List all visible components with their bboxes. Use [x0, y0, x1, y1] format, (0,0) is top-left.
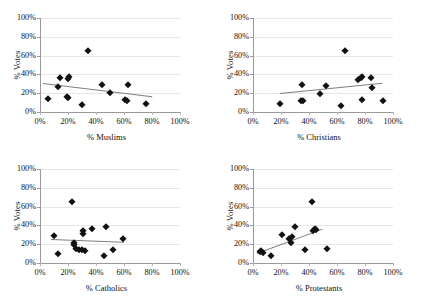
y-tick-label: 40% — [234, 221, 249, 229]
y-tick-label: 60% — [234, 202, 249, 210]
y-tick-label: 40% — [21, 221, 36, 229]
x-tick-label: 40% — [301, 269, 316, 277]
y-tick-label: 40% — [21, 70, 36, 78]
gridline-horizontal — [40, 244, 180, 245]
data-point — [308, 198, 316, 206]
x-tickmark — [68, 263, 69, 266]
chart-panel-christians: % Votes0%20%40%60%80%100%0%20%40%60%80%1… — [213, 0, 425, 151]
x-tick-label: 0% — [35, 269, 46, 277]
y-tick-label: 80% — [234, 33, 249, 41]
data-point — [337, 103, 345, 111]
x-tick-label: 40% — [88, 118, 103, 126]
x-tick-label: 0% — [35, 118, 46, 126]
plot-area-christians — [253, 18, 393, 112]
x-tickmark — [281, 263, 282, 266]
y-tick-label: 20% — [21, 89, 36, 97]
data-point — [379, 97, 387, 105]
x-tickmark — [180, 263, 181, 266]
x-tickmark — [40, 263, 41, 266]
y-axis-line — [253, 169, 254, 263]
data-point — [342, 47, 350, 55]
y-tick-label: 100% — [230, 165, 249, 173]
plot-area-protestants — [253, 169, 393, 263]
gridline-horizontal — [253, 112, 393, 113]
x-tick-label: 80% — [357, 118, 372, 126]
x-tick-label: 60% — [329, 269, 344, 277]
data-point — [301, 246, 309, 254]
x-tick-label: 100% — [383, 269, 402, 277]
data-point — [54, 83, 62, 91]
y-tick-label: 60% — [234, 51, 249, 59]
y-tick-label: 60% — [21, 51, 36, 59]
chart-panel-catholics: % Votes0%20%40%60%80%100%0%20%40%60%80%1… — [0, 151, 213, 302]
data-point — [84, 47, 92, 55]
data-point — [368, 84, 376, 92]
x-tickmark — [124, 112, 125, 115]
data-point — [267, 253, 275, 261]
chart-panel-muslims: % Votes0%20%40%60%80%100%0%20%40%60%80%1… — [0, 0, 213, 151]
y-tick-label: 0% — [25, 108, 36, 116]
x-tickmark — [68, 112, 69, 115]
x-tickmark — [337, 263, 338, 266]
x-tick-label: 40% — [301, 118, 316, 126]
y-tick-label: 100% — [17, 165, 36, 173]
y-axis-line — [40, 18, 41, 112]
x-tick-label: 80% — [144, 118, 159, 126]
x-tick-label: 60% — [116, 118, 131, 126]
y-axis-ticklabels-catholics: 0%20%40%60%80%100% — [0, 151, 36, 302]
gridline-horizontal — [40, 169, 180, 170]
y-axis-line — [253, 18, 254, 112]
gridline-horizontal — [253, 263, 393, 264]
data-point — [316, 90, 324, 98]
data-point — [101, 253, 109, 261]
y-tick-label: 80% — [21, 184, 36, 192]
x-tick-label: 100% — [170, 269, 189, 277]
gridline-horizontal — [253, 188, 393, 189]
gridline-horizontal — [40, 188, 180, 189]
x-tickmark — [365, 263, 366, 266]
x-axis-title-protestants: % Protestants — [213, 283, 425, 293]
data-point — [298, 81, 306, 89]
x-tickmark — [152, 263, 153, 266]
x-tick-label: 60% — [329, 118, 344, 126]
x-tickmark — [152, 112, 153, 115]
y-tick-label: 100% — [230, 14, 249, 22]
x-tickmark — [337, 112, 338, 115]
y-tick-label: 0% — [238, 108, 249, 116]
gridline-horizontal — [40, 207, 180, 208]
x-tick-label: 60% — [116, 269, 131, 277]
y-axis-ticklabels-muslims: 0%20%40%60%80%100% — [0, 0, 36, 151]
x-axis-title-catholics: % Catholics — [0, 283, 213, 293]
data-point — [78, 102, 86, 110]
gridline-horizontal — [253, 244, 393, 245]
gridline-horizontal — [253, 225, 393, 226]
y-tick-label: 60% — [21, 202, 36, 210]
data-point — [276, 100, 284, 108]
data-point — [98, 81, 106, 89]
x-tick-label: 40% — [88, 269, 103, 277]
gridline-horizontal — [40, 18, 180, 19]
x-axis-title-muslims: % Muslims — [0, 132, 213, 142]
x-tick-label: 0% — [248, 269, 259, 277]
gridline-horizontal — [40, 112, 180, 113]
x-tickmark — [253, 263, 254, 266]
data-point — [45, 95, 53, 103]
y-tick-label: 100% — [17, 14, 36, 22]
data-point — [88, 225, 96, 233]
y-tick-label: 20% — [234, 240, 249, 248]
data-point — [367, 74, 375, 82]
x-tick-label: 20% — [60, 269, 75, 277]
x-tickmark — [393, 263, 394, 266]
chart-panel-protestants: % Votes0%20%40%60%80%100%0%20%40%60%80%1… — [213, 151, 425, 302]
y-axis-ticklabels-protestants: 0%20%40%60%80%100% — [213, 151, 249, 302]
y-axis-line — [40, 169, 41, 263]
scatter-plot-grid: % Votes0%20%40%60%80%100%0%20%40%60%80%1… — [0, 0, 425, 302]
x-tick-label: 0% — [248, 118, 259, 126]
x-tickmark — [393, 112, 394, 115]
y-tick-label: 20% — [21, 240, 36, 248]
gridline-horizontal — [40, 263, 180, 264]
gridline-horizontal — [40, 56, 180, 57]
data-point — [323, 245, 331, 253]
plot-area-muslims — [40, 18, 180, 112]
x-tick-label: 20% — [60, 118, 75, 126]
